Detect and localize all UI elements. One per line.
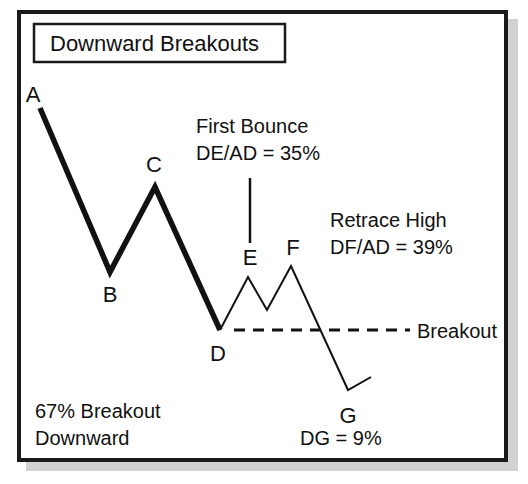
footer-right-dg: DG = 9% bbox=[300, 427, 382, 449]
retrace-high-ratio: DF/AD = 39% bbox=[330, 236, 453, 258]
point-label-b: B bbox=[103, 282, 118, 307]
first-bounce-title: First Bounce bbox=[196, 115, 308, 137]
downward-breakouts-figure: Downward Breakouts Breakout First Bounce… bbox=[0, 0, 528, 484]
first-bounce-ratio: DE/AD = 35% bbox=[196, 142, 320, 164]
point-label-f: F bbox=[286, 235, 299, 260]
point-label-a: A bbox=[26, 82, 41, 107]
chart-canvas: Downward Breakouts Breakout First Bounce… bbox=[0, 0, 528, 484]
breakout-label: Breakout bbox=[417, 320, 497, 342]
footer-left-line1: 67% Breakout bbox=[35, 400, 161, 422]
point-label-d: D bbox=[210, 341, 226, 366]
title-text: Downward Breakouts bbox=[50, 31, 259, 56]
footer-left-line2: Downward bbox=[35, 427, 129, 449]
point-label-g: G bbox=[339, 403, 356, 428]
retrace-high-title: Retrace High bbox=[330, 209, 447, 231]
point-label-e: E bbox=[243, 245, 258, 270]
point-label-c: C bbox=[146, 152, 162, 177]
